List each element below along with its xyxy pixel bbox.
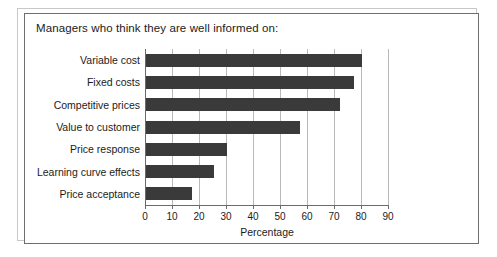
x-tick-label-80: 80 [346, 211, 376, 222]
x-tick-0 [145, 205, 146, 209]
x-tick-50 [280, 205, 281, 209]
x-tick-label-10: 10 [157, 211, 187, 222]
y-axis-labels: Variable costFixed costsCompetitive pric… [0, 49, 140, 205]
bar [146, 76, 354, 89]
x-tick-label-70: 70 [319, 211, 349, 222]
x-tick-40 [253, 205, 254, 209]
gridline-80 [361, 49, 362, 205]
bar [146, 54, 362, 67]
x-tick-label-0: 0 [130, 211, 160, 222]
x-tick-30 [226, 205, 227, 209]
x-tick-90 [388, 205, 389, 209]
bar [146, 187, 192, 200]
x-tick-label-90: 90 [373, 211, 403, 222]
x-tick-20 [199, 205, 200, 209]
y-axis-label: Price acceptance [0, 188, 140, 200]
gridline-90 [388, 49, 389, 205]
y-axis-label: Learning curve effects [0, 166, 140, 178]
x-axis-line [145, 205, 389, 206]
chart-title: Managers who think they are well informe… [36, 22, 278, 34]
y-axis-label: Variable cost [0, 54, 140, 66]
bar [146, 121, 300, 134]
bar [146, 98, 340, 111]
x-axis-title: Percentage [145, 226, 389, 238]
x-tick-label-40: 40 [238, 211, 268, 222]
x-tick-70 [334, 205, 335, 209]
x-tick-label-50: 50 [265, 211, 295, 222]
x-tick-label-20: 20 [184, 211, 214, 222]
x-tick-label-60: 60 [292, 211, 322, 222]
x-tick-60 [307, 205, 308, 209]
x-tick-label-30: 30 [211, 211, 241, 222]
bar [146, 143, 227, 156]
x-tick-10 [172, 205, 173, 209]
figure-container: Managers who think they are well informe… [0, 0, 497, 257]
bar [146, 165, 214, 178]
y-axis-label: Value to customer [0, 121, 140, 133]
y-axis-label: Price response [0, 143, 140, 155]
y-axis-label: Fixed costs [0, 76, 140, 88]
gridline-70 [334, 49, 335, 205]
gridline-60 [307, 49, 308, 205]
y-axis-label: Competitive prices [0, 99, 140, 111]
x-tick-80 [361, 205, 362, 209]
